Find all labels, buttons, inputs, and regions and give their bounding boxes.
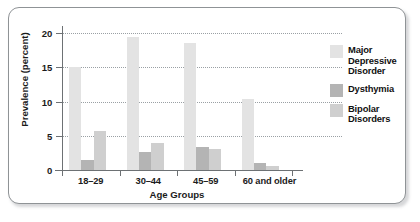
bar-2-4 — [254, 163, 266, 170]
legend-swatch-icon-2 — [330, 84, 343, 97]
bar-2-1 — [81, 160, 93, 170]
x-tick-label-1: 30–44 — [120, 176, 178, 186]
x-axis-line — [55, 170, 303, 171]
bar-1-1 — [69, 67, 81, 170]
legend-label-3: Bipolar Disorders — [348, 104, 390, 125]
bar-2-2 — [139, 152, 151, 170]
bar-3-2 — [151, 143, 163, 170]
x-tick-label-0: 18–29 — [62, 176, 120, 186]
bar-1-4 — [242, 99, 254, 170]
legend-item-1[interactable]: Major Depressive Disorder — [330, 45, 406, 77]
legend-label-1: Major Depressive Disorder — [348, 45, 397, 77]
bar-3-3 — [209, 149, 221, 170]
x-axis-title: Age Groups — [62, 189, 292, 200]
y-axis-title: Prevalence (percent) — [19, 20, 30, 140]
y-tick-label-0: 0 — [32, 165, 52, 176]
bar-3-4 — [266, 166, 278, 170]
x-tick-label-2: 45–59 — [177, 176, 235, 186]
bar-1-2 — [127, 37, 139, 170]
legend-label-2: Dysthymia — [348, 84, 394, 95]
y-tick-label-15: 15 — [32, 62, 52, 73]
bar-3-1 — [94, 131, 106, 170]
y-tick-label-5: 5 — [32, 131, 52, 142]
plot-area — [62, 33, 292, 170]
bar-2-3 — [196, 147, 208, 170]
chart-legend: Major Depressive DisorderDysthymiaBipola… — [330, 45, 406, 132]
y-tick-label-10: 10 — [32, 97, 52, 108]
legend-item-2[interactable]: Dysthymia — [330, 84, 406, 97]
legend-swatch-icon-1 — [330, 45, 343, 58]
y-tick-label-20: 20 — [32, 28, 52, 39]
figure-container: 20 15 10 5 0 18–29 30–44 45–59 60 and ol… — [0, 0, 420, 222]
x-tick-label-3: 60 and older — [235, 176, 305, 186]
bar-1-3 — [184, 43, 196, 170]
legend-swatch-icon-3 — [330, 104, 343, 117]
legend-item-3[interactable]: Bipolar Disorders — [330, 104, 406, 125]
